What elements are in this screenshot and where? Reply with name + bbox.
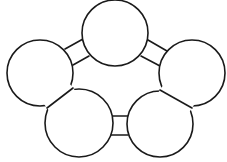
bridge-line-top-right (141, 56, 160, 66)
bridge-line-left-top (65, 39, 83, 49)
bridge-line-left-top (73, 56, 89, 65)
circle-top (82, 0, 148, 66)
circle-ring-diagram (0, 0, 227, 162)
bridge-line-top-right (148, 40, 167, 51)
circle-nodes (7, 0, 225, 157)
